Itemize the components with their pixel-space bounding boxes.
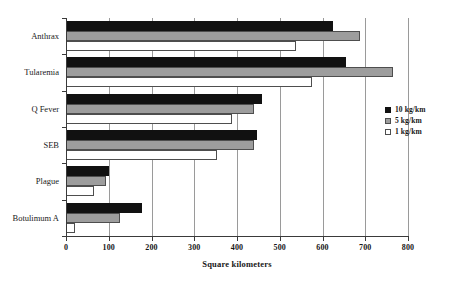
category-label: Q Fever xyxy=(31,104,59,114)
y-tick-mark xyxy=(62,163,66,164)
x-tick-mark xyxy=(109,237,110,241)
bar xyxy=(66,186,94,196)
bar xyxy=(66,223,75,233)
x-tick-label: 100 xyxy=(103,243,115,252)
x-axis-title: Square kilometers xyxy=(0,259,474,269)
bar xyxy=(66,176,106,186)
x-tick-label: 800 xyxy=(402,243,414,252)
y-tick-mark xyxy=(62,236,66,237)
chart-legend: 10 kg/km5 kg/km1 kg/km xyxy=(385,104,426,137)
bar-chart: AnthraxTularemiaQ FeverSEBPlagueBotulimu… xyxy=(0,0,474,281)
category-label: Botulimum A xyxy=(12,213,59,223)
x-tick-mark xyxy=(365,237,366,241)
bar-group: Tularemia xyxy=(66,54,408,90)
bar-group: SEB xyxy=(66,127,408,163)
bar xyxy=(66,67,393,77)
category-label: Anthrax xyxy=(31,31,59,41)
bar xyxy=(66,94,262,104)
category-label: SEB xyxy=(43,140,59,150)
x-tick-label: 300 xyxy=(188,243,200,252)
x-tick-mark xyxy=(408,237,409,241)
x-tick-label: 600 xyxy=(316,243,328,252)
y-tick-mark xyxy=(62,91,66,92)
y-tick-mark xyxy=(62,127,66,128)
bar xyxy=(66,130,257,140)
x-tick-mark xyxy=(323,237,324,241)
category-label: Tularemia xyxy=(24,67,59,77)
plot-area: AnthraxTularemiaQ FeverSEBPlagueBotulimu… xyxy=(66,18,408,236)
legend-label: 5 kg/km xyxy=(395,116,422,125)
bar xyxy=(66,140,254,150)
bar-group: Anthrax xyxy=(66,18,408,54)
x-tick-label: 0 xyxy=(64,243,68,252)
bar-group: Plague xyxy=(66,163,408,199)
x-tick-label: 700 xyxy=(359,243,371,252)
legend-label: 10 kg/km xyxy=(395,105,426,114)
bar xyxy=(66,77,312,87)
x-tick-mark xyxy=(237,237,238,241)
bar xyxy=(66,166,109,176)
x-tick-label: 400 xyxy=(231,243,243,252)
y-tick-mark xyxy=(62,200,66,201)
x-tick-mark xyxy=(152,237,153,241)
legend-swatch-icon xyxy=(385,129,391,135)
bar xyxy=(66,41,296,51)
bar xyxy=(66,57,346,67)
y-axis-line xyxy=(66,18,67,237)
x-tick-mark xyxy=(280,237,281,241)
bar xyxy=(66,21,333,31)
bar xyxy=(66,114,232,124)
legend-item: 5 kg/km xyxy=(385,115,426,126)
legend-label: 1 kg/km xyxy=(395,127,422,136)
category-label: Plague xyxy=(36,176,59,186)
bar xyxy=(66,31,360,41)
x-tick-mark xyxy=(194,237,195,241)
bar-group: Q Fever xyxy=(66,91,408,127)
bar xyxy=(66,213,120,223)
legend-swatch-icon xyxy=(385,107,391,113)
bar xyxy=(66,150,217,160)
bar xyxy=(66,104,254,114)
x-tick-label: 500 xyxy=(274,243,286,252)
bar xyxy=(66,203,142,213)
x-tick-mark xyxy=(66,237,67,241)
legend-swatch-icon xyxy=(385,118,391,124)
legend-item: 1 kg/km xyxy=(385,126,426,137)
bar-group: Botulimum A xyxy=(66,200,408,236)
y-tick-mark xyxy=(62,54,66,55)
y-tick-mark xyxy=(62,18,66,19)
legend-item: 10 kg/km xyxy=(385,104,426,115)
x-tick-label: 200 xyxy=(145,243,157,252)
